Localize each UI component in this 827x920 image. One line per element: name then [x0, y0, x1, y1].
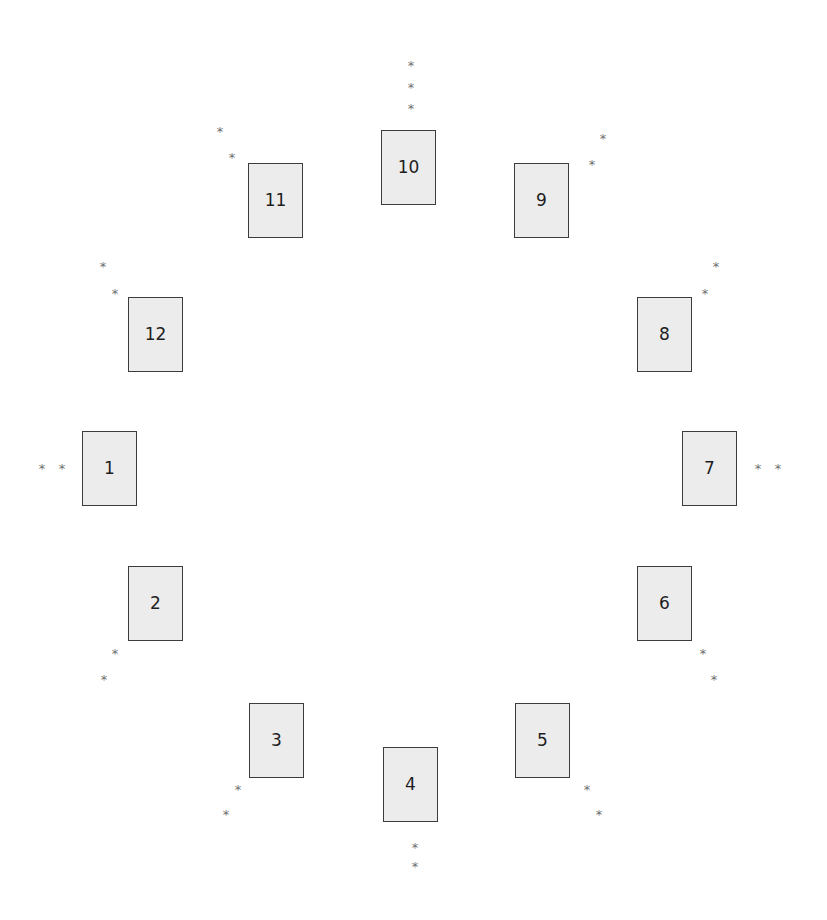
circular-card-diagram: 1 2 3 4 5 6 7 8 9 10 11 12 *************…	[0, 0, 827, 920]
asterisk-marker-icon: *	[406, 81, 416, 91]
asterisk-marker-icon: *	[215, 125, 225, 135]
asterisk-marker-icon: *	[709, 673, 719, 683]
card-label: 3	[271, 732, 282, 749]
card-9: 9	[514, 163, 569, 238]
asterisk-marker-icon: *	[99, 673, 109, 683]
card-2: 2	[128, 566, 183, 641]
card-label: 12	[145, 326, 167, 343]
asterisk-marker-icon: *	[110, 647, 120, 657]
card-1: 1	[82, 431, 137, 506]
asterisk-marker-icon: *	[410, 860, 420, 870]
card-3: 3	[249, 703, 304, 778]
asterisk-marker-icon: *	[698, 647, 708, 657]
asterisk-marker-icon: *	[221, 808, 231, 818]
asterisk-marker-icon: *	[753, 462, 763, 472]
card-5: 5	[515, 703, 570, 778]
asterisk-marker-icon: *	[582, 783, 592, 793]
asterisk-marker-icon: *	[406, 102, 416, 112]
card-12: 12	[128, 297, 183, 372]
card-label: 4	[405, 776, 416, 793]
asterisk-marker-icon: *	[98, 260, 108, 270]
card-10: 10	[381, 130, 436, 205]
asterisk-marker-icon: *	[410, 841, 420, 851]
card-label: 1	[104, 460, 115, 477]
card-label: 6	[659, 595, 670, 612]
card-8: 8	[637, 297, 692, 372]
asterisk-marker-icon: *	[587, 158, 597, 168]
card-4: 4	[383, 747, 438, 822]
card-label: 10	[398, 159, 420, 176]
asterisk-marker-icon: *	[700, 287, 710, 297]
asterisk-marker-icon: *	[594, 808, 604, 818]
card-label: 5	[537, 732, 548, 749]
card-label: 8	[659, 326, 670, 343]
asterisk-marker-icon: *	[37, 462, 47, 472]
card-label: 11	[265, 192, 287, 209]
asterisk-marker-icon: *	[110, 287, 120, 297]
asterisk-marker-icon: *	[598, 132, 608, 142]
card-label: 9	[536, 192, 547, 209]
card-label: 7	[704, 460, 715, 477]
card-6: 6	[637, 566, 692, 641]
asterisk-marker-icon: *	[711, 260, 721, 270]
card-11: 11	[248, 163, 303, 238]
asterisk-marker-icon: *	[227, 151, 237, 161]
asterisk-marker-icon: *	[57, 462, 67, 472]
asterisk-marker-icon: *	[233, 783, 243, 793]
card-7: 7	[682, 431, 737, 506]
card-label: 2	[150, 595, 161, 612]
asterisk-marker-icon: *	[406, 59, 416, 69]
asterisk-marker-icon: *	[773, 462, 783, 472]
